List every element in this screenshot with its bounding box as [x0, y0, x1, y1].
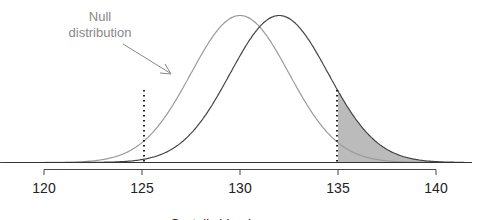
x-tick-label: 130 — [228, 180, 252, 196]
x-axis: 120125130135140 — [32, 170, 448, 197]
power-shaded-region — [338, 91, 465, 163]
chart-canvas: 120125130135140 Null distribution Systol… — [0, 0, 478, 220]
x-axis-label: Systolic blood pressure — [171, 216, 305, 220]
annotation-null-line2: distribution — [69, 25, 132, 40]
annotation-arrow-icon — [123, 44, 171, 74]
x-tick-label: 135 — [326, 180, 350, 196]
x-tick-label: 125 — [130, 180, 154, 196]
x-tick-label: 120 — [32, 180, 56, 196]
annotation-null-line1: Null — [89, 9, 112, 24]
x-tick-label: 140 — [424, 180, 448, 196]
